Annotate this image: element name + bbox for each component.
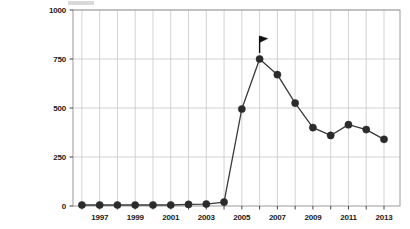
flag-icon	[260, 36, 268, 53]
data-point	[345, 121, 352, 128]
data-point	[220, 198, 227, 205]
data-point	[149, 201, 156, 208]
data-point	[327, 132, 334, 139]
data-point	[363, 126, 370, 133]
plot-area	[0, 0, 410, 229]
plot-frame	[70, 10, 401, 210]
data-point	[238, 105, 245, 112]
data-point	[78, 201, 85, 208]
data-point	[185, 201, 192, 208]
data-point	[292, 100, 299, 107]
grid-lines	[73, 10, 400, 206]
flag-banner	[260, 36, 268, 42]
data-point	[309, 124, 316, 131]
data-markers	[78, 55, 387, 208]
data-point	[380, 136, 387, 143]
data-point	[274, 71, 281, 78]
data-point	[203, 200, 210, 207]
data-point	[96, 201, 103, 208]
data-point	[167, 201, 174, 208]
data-point	[132, 201, 139, 208]
line-chart: 02505007501000 1997199920012003200520072…	[0, 0, 410, 229]
data-point	[256, 55, 263, 62]
data-point	[114, 201, 121, 208]
series-polyline	[82, 59, 384, 205]
data-line	[82, 59, 384, 205]
